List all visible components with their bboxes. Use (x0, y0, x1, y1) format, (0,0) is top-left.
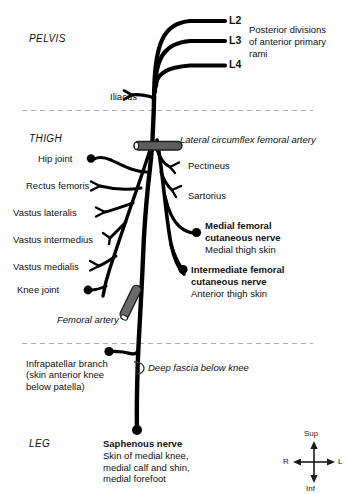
region-label-pelvis: PELVIS (29, 33, 66, 45)
femoral-nerve-diagram (0, 0, 347, 494)
deep-fascia-note: Deep fascia below knee (148, 362, 249, 374)
compass-label-inferior: Inf (306, 484, 315, 493)
nerve-branch-vastus-intermedius-fork-upper (103, 233, 110, 238)
nerve-branch-hip-joint (111, 160, 147, 172)
endpoint-dot-saphenous (132, 425, 142, 435)
orientation-compass-icon (298, 446, 330, 478)
nerve-branch-hip-joint-hook (94, 158, 111, 160)
endpoint-dot-intermediate-femoral-cutaneous (178, 265, 187, 274)
branch-label-rectus-femoris: Rectus femoris (26, 180, 89, 192)
branch-label-vastus-lateralis: Vastus lateralis (13, 207, 77, 219)
endpoint-dot-hip-joint (87, 154, 95, 162)
nerve-branch-rectus-femoris (100, 186, 141, 189)
saphenous-nerve-supply: Skin of medial knee, medial calf and shi… (103, 450, 190, 485)
compass-label-left: L (338, 457, 342, 466)
figure-canvas: PELVIS THIGH LEG L2 L3 L4 Posterior divi… (0, 0, 347, 494)
nerve-branch-vastus-lateralis-fork-upper (96, 208, 105, 213)
nerve-branch-pectineus-fork-lower (170, 167, 175, 173)
region-label-leg: LEG (29, 438, 50, 450)
nerve-root-label-l4: L4 (229, 59, 241, 71)
nerve-root-label-l3: L3 (229, 35, 241, 47)
nerve-root-l4 (156, 66, 225, 87)
nerve-branch-vastus-lateralis-fork-lower (96, 212, 105, 217)
nerve-branch-sartorius-fork-upper (172, 186, 181, 190)
cutaneous-nerve-title-medial-femoral: Medial femoral cutaneous nerve (205, 220, 281, 244)
compass-label-superior: Sup (304, 429, 318, 438)
region-label-thigh: THIGH (29, 133, 62, 145)
compass-label-right: R (283, 457, 289, 466)
branch-label-infrapatellar-detail: (skin anterior knee below patella) (26, 369, 104, 392)
endpoint-dot-knee-joint (84, 286, 93, 295)
nerve-branch-vastus-medialis-fork-lower (90, 266, 99, 271)
cutaneous-nerve-title-intermediate-femoral: Intermediate femoral cutaneous nerve (191, 264, 284, 288)
branch-label-iliacus: Iliacus (110, 91, 137, 103)
nerve-branch-pectineus-fork-upper (170, 163, 179, 168)
nerve-branch-vastus-medialis-fork-upper (90, 261, 99, 266)
nerve-root-l2 (154, 21, 225, 100)
nerve-branch-rectus-femoris-fork-lower (91, 186, 100, 191)
nerve-branch-rectus-femoris-fork-upper (91, 182, 100, 187)
nerve-root-label-l2: L2 (229, 15, 241, 27)
branch-label-knee-joint: Knee joint (17, 284, 59, 296)
endpoint-dot-infrapatellar (104, 347, 113, 356)
branch-label-sartorius: Sartorius (188, 190, 226, 202)
cutaneous-nerve-supply-medial-femoral: Medial thigh skin (205, 244, 276, 256)
cutaneous-nerve-supply-intermediate-femoral: Anterior thigh skin (191, 288, 267, 300)
branch-label-vastus-intermedius: Vastus intermedius (13, 234, 93, 246)
nerve-root-note: Posterior divisions of anterior primary … (249, 24, 326, 60)
nerve-branch-vastus-intermedius-fork-lower (109, 238, 110, 244)
branch-label-hip-joint: Hip joint (38, 153, 72, 165)
artery-lateral-circumflex-femoral-icon (134, 142, 182, 151)
nerve-branch-sartorius-fork-lower (172, 190, 176, 197)
artery-label-femoral: Femoral artery (57, 314, 119, 326)
nerve-branch-infrapatellar (111, 351, 137, 354)
saphenous-nerve-title: Saphenous nerve (103, 438, 182, 450)
artery-label-lateral-circumflex-femoral: Lateral circumflex femoral artery (180, 134, 316, 146)
endpoint-dot-medial-femoral-cutaneous (192, 228, 201, 237)
branch-label-pectineus: Pectineus (188, 160, 230, 172)
branch-label-infrapatellar-title: Infrapatellar branch (26, 358, 108, 370)
branch-label-vastus-medialis: Vastus medialis (13, 261, 79, 273)
